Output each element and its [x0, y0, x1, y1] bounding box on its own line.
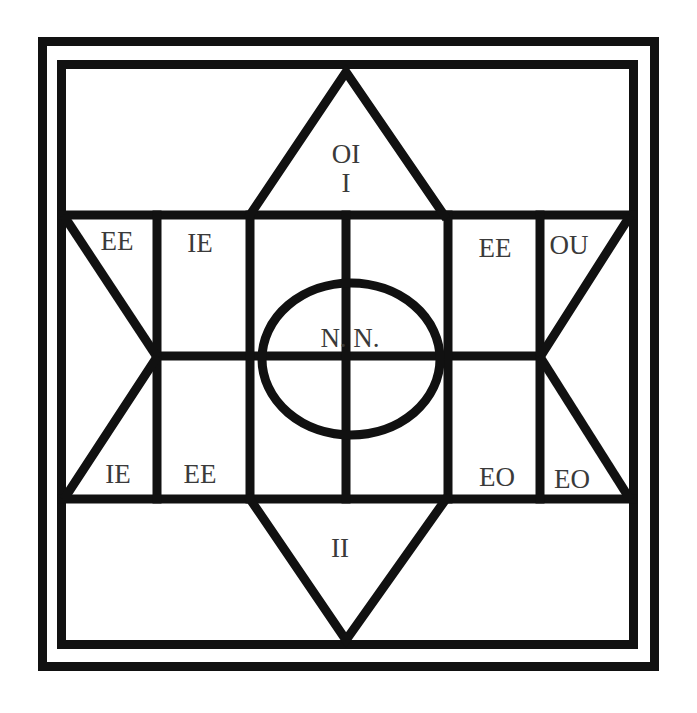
label-upper-left-triangle: EE [101, 226, 134, 256]
label-top-triangle-lower: I [342, 168, 351, 198]
label-top-triangle-upper: OI [332, 139, 361, 169]
label-lower-left-triangle: IE [105, 459, 130, 489]
label-bottom-triangle: II [331, 533, 349, 563]
label-upper-left-box: IE [187, 228, 212, 258]
label-upper-right-triangle: OU [550, 230, 589, 260]
label-lower-left-box: EE [184, 459, 217, 489]
label-lower-right-box: EO [479, 462, 515, 492]
bottom-triangle [250, 499, 446, 640]
label-upper-right-box: EE [479, 233, 512, 263]
label-lower-right-triangle: EO [554, 464, 590, 494]
label-center-ellipse: N. N. [320, 323, 379, 353]
star-grid-diagram: OI I EE IE EE OU N. N. IE EE EO EO II [0, 0, 697, 713]
